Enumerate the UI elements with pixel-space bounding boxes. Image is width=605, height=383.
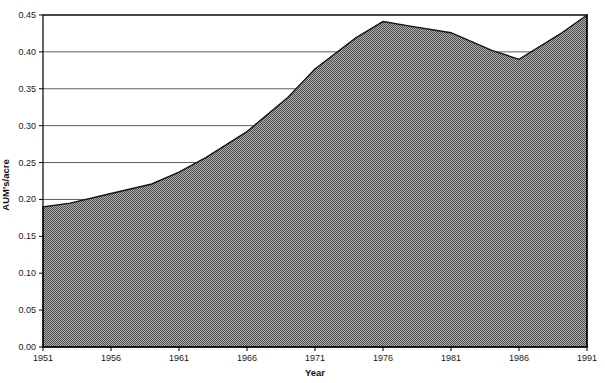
area-polygon	[43, 15, 587, 347]
x-tick-label: 1971	[305, 353, 325, 363]
x-tick-label: 1961	[169, 353, 189, 363]
x-tick-label: 1956	[101, 353, 121, 363]
area-chart-canvas: 0.000.050.100.150.200.250.300.350.400.45…	[0, 0, 605, 383]
y-tick-label: 0.30	[18, 121, 36, 131]
area-chart-figure: 0.000.050.100.150.200.250.300.350.400.45…	[0, 0, 605, 383]
y-tick-label: 0.05	[18, 305, 36, 315]
area-series	[43, 15, 587, 347]
y-axis-title: AUM's/acre	[0, 159, 11, 210]
x-tick-label: 1966	[237, 353, 257, 363]
x-axis-title: Year	[305, 367, 325, 378]
y-tick-label: 0.20	[18, 194, 36, 204]
x-tick-label: 1991	[577, 353, 597, 363]
y-tick-label: 0.25	[18, 158, 36, 168]
y-tick-label: 0.00	[18, 342, 36, 352]
y-tick-label: 0.35	[18, 84, 36, 94]
y-tick-label: 0.15	[18, 231, 36, 241]
y-tick-label: 0.40	[18, 47, 36, 57]
x-tick-label: 1951	[33, 353, 53, 363]
x-axis-tick-labels: 195119561961196619711976198119861991	[33, 353, 597, 363]
y-axis-tick-labels: 0.000.050.100.150.200.250.300.350.400.45	[18, 10, 36, 352]
x-tick-label: 1976	[373, 353, 393, 363]
x-tick-label: 1981	[441, 353, 461, 363]
y-tick-label: 0.45	[18, 10, 36, 20]
x-tick-label: 1986	[509, 353, 529, 363]
y-tick-label: 0.10	[18, 268, 36, 278]
